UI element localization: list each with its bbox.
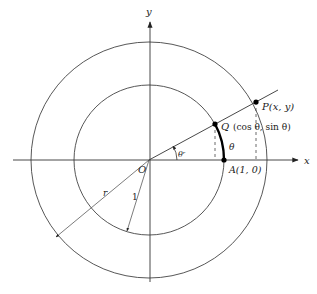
angle-theta-label: θʳ bbox=[178, 150, 186, 159]
point-a bbox=[221, 157, 226, 162]
origin-label: O bbox=[138, 164, 146, 175]
point-a-label: A(1, 0) bbox=[228, 164, 262, 175]
arc-theta-label: θ bbox=[229, 142, 235, 152]
angle-arc bbox=[173, 146, 177, 160]
point-p-label: P(x, y) bbox=[261, 101, 294, 112]
diagram-canvas: y x O P(x, y) Q (cos θ, sin θ) A(1, 0) θ… bbox=[0, 0, 317, 294]
point-q bbox=[212, 121, 217, 126]
point-q-name: Q bbox=[221, 121, 229, 132]
point-p bbox=[253, 99, 258, 104]
radius-1-label: 1 bbox=[132, 192, 138, 202]
y-axis-label: y bbox=[145, 6, 152, 17]
x-axis-label: x bbox=[304, 155, 310, 166]
point-q-coords: (cos θ, sin θ) bbox=[233, 122, 291, 132]
unit-circle-diagram: y x O P(x, y) Q (cos θ, sin θ) A(1, 0) θ… bbox=[0, 0, 317, 294]
radius-r-label: r bbox=[103, 188, 108, 198]
